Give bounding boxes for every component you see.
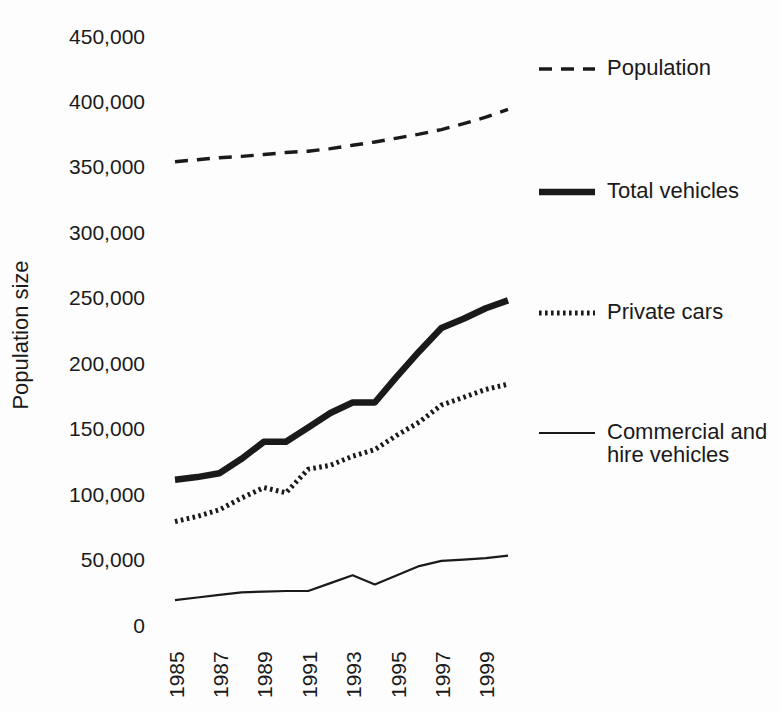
svg-text:50,000: 50,000 — [81, 548, 145, 571]
svg-text:1995: 1995 — [387, 651, 410, 698]
svg-text:0: 0 — [133, 614, 145, 637]
legend-item-commercial-hire-vehicles: Commercial and hire vehicles — [538, 421, 779, 467]
svg-text:250,000: 250,000 — [69, 286, 145, 309]
legend-label-population: Population — [607, 57, 711, 80]
svg-text:1989: 1989 — [253, 651, 276, 698]
svg-text:450,000: 450,000 — [69, 25, 145, 48]
svg-text:350,000: 350,000 — [69, 155, 145, 178]
svg-text:200,000: 200,000 — [69, 352, 145, 375]
svg-text:1999: 1999 — [475, 651, 498, 698]
legend-label-commercial-hire-vehicles: Commercial and hire vehicles — [607, 421, 779, 467]
svg-text:150,000: 150,000 — [69, 417, 145, 440]
legend-label-total-vehicles: Total vehicles — [607, 180, 739, 203]
svg-text:1991: 1991 — [298, 651, 321, 698]
legend-item-total-vehicles: Total vehicles — [538, 180, 739, 203]
svg-text:100,000: 100,000 — [69, 483, 145, 506]
svg-text:1993: 1993 — [342, 651, 365, 698]
svg-text:1985: 1985 — [165, 651, 188, 698]
commercial-hire-vehicles-thin-line-swatch — [538, 427, 596, 439]
svg-text:300,000: 300,000 — [69, 221, 145, 244]
legend-item-population: Population — [538, 57, 711, 80]
svg-text:Population size: Population size — [8, 260, 33, 409]
population-vehicles-chart-figure: 050,000100,000150,000200,000250,000300,0… — [0, 0, 780, 712]
legend-label-private-cars: Private cars — [607, 301, 723, 324]
svg-text:400,000: 400,000 — [69, 90, 145, 113]
legend: Population Total vehicles Private cars C… — [538, 0, 780, 712]
private-cars-dotted-line-swatch — [538, 307, 596, 319]
total-vehicles-thick-line-swatch — [538, 186, 596, 198]
svg-text:1987: 1987 — [209, 651, 232, 698]
legend-item-private-cars: Private cars — [538, 301, 723, 324]
svg-text:1997: 1997 — [431, 651, 454, 698]
population-dashed-line-swatch — [538, 63, 596, 75]
